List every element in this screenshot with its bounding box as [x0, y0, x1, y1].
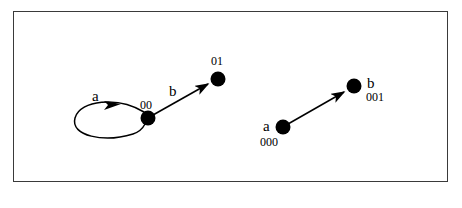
edge-label-left-a: a: [92, 89, 99, 104]
edge-label-left-b: b: [169, 84, 177, 99]
node-label-right-001: 001: [366, 91, 384, 103]
node-label-right-000: 000: [260, 136, 278, 148]
node-label-left-00: 00: [140, 99, 152, 111]
node-symbol-right-b: b: [367, 76, 375, 91]
figure-root: a 00 b 01 a 000 b 001: [0, 0, 462, 208]
node-symbol-right-a: a: [263, 119, 270, 134]
node-label-left-01: 01: [211, 55, 223, 67]
